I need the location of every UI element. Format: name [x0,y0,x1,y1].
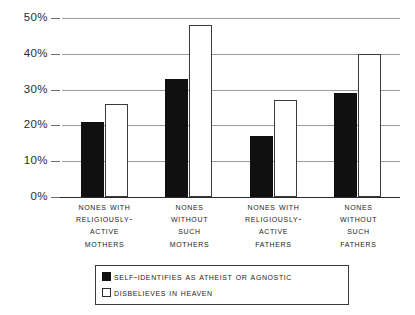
chart-legend: Self-identifies as atheist or agnostic D… [95,265,349,305]
bar-series-1-group-1 [189,25,212,197]
x-category-label-3: Noneswithoutsuchfathers [316,201,401,250]
x-axis-category-labels: Nones withreligiously-activemothersNones… [62,201,400,259]
plot-area [62,18,400,197]
gridline-40 [62,54,400,55]
x-category-label-line: active [62,225,147,237]
y-tick-label-50: 50% [8,12,48,24]
y-tick-label-40: 40% [8,48,48,60]
bar-series-0-group-3 [334,93,357,197]
y-tick-mark-50 [51,18,60,19]
x-category-label-line: Nones with [62,201,147,213]
y-tick-label-10: 10% [8,155,48,167]
x-category-label-2: Nones withreligiously-activefathers [231,201,316,250]
x-category-label-line: religiously- [231,213,316,225]
bar-series-1-group-2 [274,100,297,197]
x-category-label-line: mothers [62,238,147,250]
legend-label-atheist-agnostic: Self-identifies as atheist or agnostic [114,271,292,282]
legend-item-atheist-agnostic: Self-identifies as atheist or agnostic [102,271,292,282]
x-category-label-line: without [147,213,232,225]
gridline-0 [52,197,400,198]
y-tick-label-20: 20% [8,119,48,131]
y-tick-label-30: 30% [8,84,48,96]
y-tick-mark-20 [51,125,60,126]
bar-series-0-group-0 [81,122,104,197]
y-tick-label-0: 0% [8,191,48,203]
bar-series-1-group-3 [358,54,381,197]
x-category-label-line: without [316,213,401,225]
gridline-30 [62,90,400,91]
legend-swatch-light [102,288,111,297]
x-category-label-line: fathers [231,238,316,250]
bar-series-1-group-0 [105,104,128,197]
x-category-label-0: Nones withreligiously-activemothers [62,201,147,250]
legend-item-disbelieves-heaven: Disbelieves in heaven [102,287,213,298]
x-category-label-line: fathers [316,238,401,250]
x-category-label-line: Nones with [231,201,316,213]
x-category-label-line: such [316,225,401,237]
bar-series-0-group-2 [250,136,273,197]
legend-label-disbelieves-heaven: Disbelieves in heaven [114,287,213,298]
y-tick-mark-0 [51,197,60,198]
x-category-label-line: religiously- [62,213,147,225]
y-tick-mark-30 [51,90,60,91]
x-category-label-line: mothers [147,238,232,250]
legend-swatch-dark [102,272,111,281]
gridline-50 [62,18,400,19]
x-category-label-line: active [231,225,316,237]
x-category-label-line: Nones [147,201,232,213]
y-tick-mark-40 [51,54,60,55]
x-category-label-line: Nones [316,201,401,213]
x-category-label-line: such [147,225,232,237]
bar-chart: 50%40%30%20%10%0% Nones withreligiously-… [0,0,415,315]
y-tick-mark-10 [51,161,60,162]
bar-series-0-group-1 [165,79,188,197]
x-category-label-1: Noneswithoutsuchmothers [147,201,232,250]
